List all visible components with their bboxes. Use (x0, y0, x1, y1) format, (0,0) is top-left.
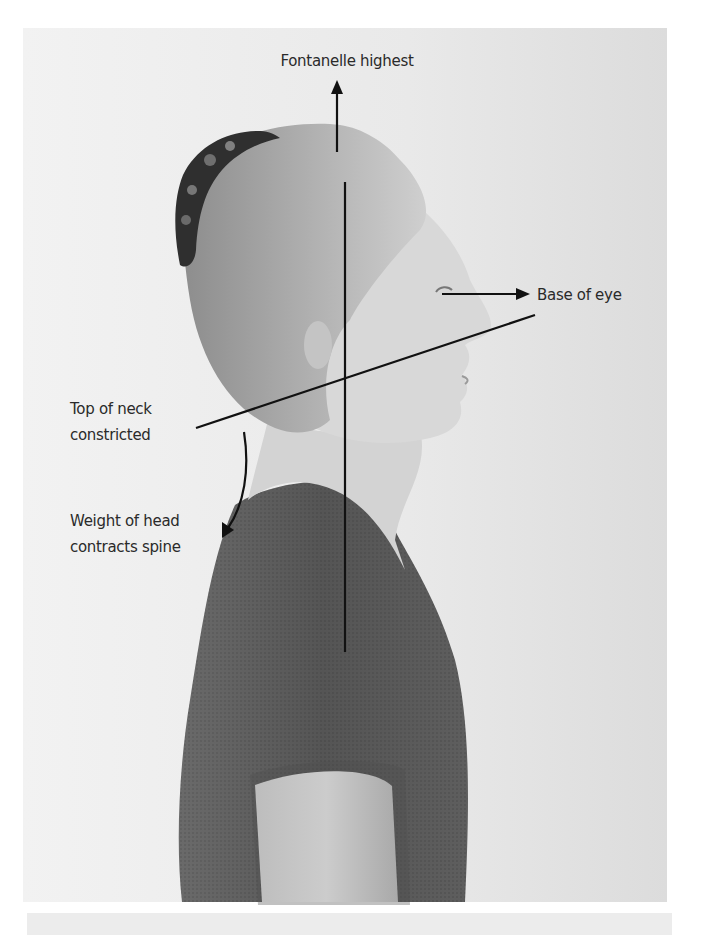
arm (255, 771, 398, 902)
hair-clip-bead (181, 215, 191, 225)
label-fontanelle: Fontanelle highest (280, 52, 414, 70)
label-neck-line2: constricted (70, 426, 151, 444)
label-weight-line2: contracts spine (70, 538, 181, 556)
label-neck-line1: Top of neck (69, 400, 152, 418)
hair-clip-bead (225, 141, 235, 151)
label-base-of-eye: Base of eye (537, 286, 622, 304)
label-weight-line1: Weight of head (70, 512, 180, 530)
hair-clip-bead (187, 185, 197, 195)
ear (304, 321, 332, 369)
hair-clip-bead (204, 154, 216, 166)
figure-canvas: Fontanelle highest Base of eye Top of ne… (0, 0, 707, 935)
posture-figure: Fontanelle highest Base of eye Top of ne… (0, 0, 707, 935)
next-photo-edge (27, 913, 672, 935)
